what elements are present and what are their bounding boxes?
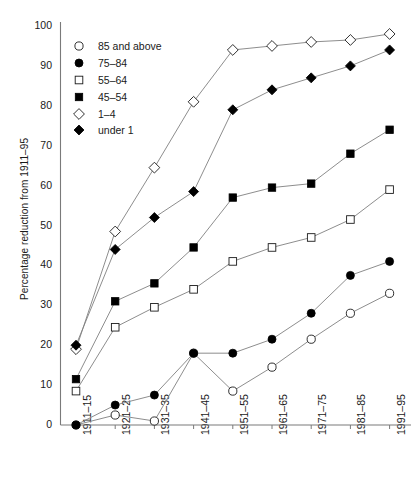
data-point-filled-circle [386, 257, 394, 265]
series-line [76, 261, 390, 425]
series-45-54 [72, 126, 393, 383]
open-diamond-icon [72, 107, 86, 121]
data-point-filled-square [72, 375, 79, 382]
series-line [76, 293, 390, 425]
open-circle-icon [72, 39, 86, 53]
data-point-open-circle [75, 42, 83, 50]
data-point-open-square [307, 234, 315, 242]
data-point-filled-diamond [385, 45, 395, 55]
line-chart: Percentage reduction from 1911–95 010203… [0, 0, 417, 499]
data-point-filled-circle [190, 349, 198, 357]
plot-area [0, 0, 417, 499]
data-point-open-diamond [227, 45, 238, 56]
data-point-filled-square [386, 126, 393, 133]
data-point-filled-square [112, 298, 119, 305]
legend-marker [68, 90, 90, 104]
filled-square-icon [72, 90, 86, 104]
data-point-filled-diamond [306, 73, 316, 83]
series-75-84 [72, 257, 394, 429]
legend-item-label: 45–54 [90, 91, 127, 103]
data-point-open-circle [229, 387, 237, 395]
data-point-filled-circle [346, 271, 354, 279]
data-point-open-diamond [188, 96, 199, 107]
data-point-open-square [229, 258, 237, 266]
data-point-filled-diamond [345, 61, 355, 71]
series-85-and-above [72, 289, 394, 429]
legend-item[interactable]: 85 and above [68, 38, 162, 55]
legend-item[interactable]: 75–84 [68, 55, 162, 72]
data-point-filled-square [151, 280, 158, 287]
data-point-filled-circle [150, 391, 158, 399]
data-point-open-square [75, 76, 83, 84]
data-point-open-diamond [149, 162, 160, 173]
data-point-filled-diamond [189, 187, 199, 197]
data-point-open-diamond [267, 41, 278, 52]
legend-item-label: 55–64 [90, 74, 127, 86]
data-point-open-square [72, 387, 80, 395]
data-point-filled-circle [268, 335, 276, 343]
data-point-filled-diamond [74, 125, 84, 135]
data-point-open-circle [307, 335, 315, 343]
data-point-filled-circle [111, 401, 119, 409]
legend-item-label: 1–4 [90, 108, 116, 120]
legend-item[interactable]: 55–64 [68, 72, 162, 89]
data-point-filled-diamond [110, 244, 120, 254]
legend-item[interactable]: under 1 [68, 122, 162, 139]
data-point-filled-square [308, 180, 315, 187]
filled-circle-icon [72, 56, 86, 70]
legend-item[interactable]: 45–54 [68, 88, 162, 105]
data-point-open-square [268, 244, 276, 252]
data-point-open-circle [268, 363, 276, 371]
legend-marker [68, 107, 90, 121]
data-point-filled-diamond [267, 85, 277, 95]
chart-legend: 85 and above75–8455–6445–541–4under 1 [68, 38, 162, 139]
data-point-filled-circle [307, 309, 315, 317]
data-point-open-diamond [74, 108, 85, 119]
data-point-open-diamond [306, 37, 317, 48]
data-point-open-circle [386, 289, 394, 297]
data-point-open-square [111, 323, 119, 331]
filled-diamond-icon [72, 123, 86, 137]
data-point-filled-circle [229, 349, 237, 357]
legend-marker [68, 123, 90, 137]
data-point-open-circle [346, 309, 354, 317]
data-point-filled-diamond [228, 105, 238, 115]
open-square-icon [72, 73, 86, 87]
legend-marker [68, 39, 90, 53]
legend-marker [68, 56, 90, 70]
legend-item-label: 75–84 [90, 57, 127, 69]
legend-marker [68, 73, 90, 87]
data-point-filled-square [75, 93, 82, 100]
data-point-filled-square [268, 184, 275, 191]
data-point-open-diamond [384, 29, 395, 40]
legend-item-label: under 1 [90, 124, 134, 136]
data-point-open-circle [111, 411, 119, 419]
data-point-filled-square [190, 244, 197, 251]
series-55-64 [72, 186, 393, 395]
series-line [76, 190, 390, 391]
data-point-open-square [151, 303, 159, 311]
data-point-open-diamond [110, 226, 121, 237]
data-point-filled-circle [75, 59, 83, 67]
data-point-open-diamond [345, 35, 356, 46]
series-line [76, 130, 390, 379]
data-point-filled-circle [72, 421, 80, 429]
data-point-open-square [190, 286, 198, 294]
data-point-open-circle [150, 417, 158, 425]
data-point-filled-diamond [149, 213, 159, 223]
data-point-filled-square [347, 150, 354, 157]
data-point-open-square [386, 186, 394, 194]
legend-item-label: 85 and above [90, 40, 162, 52]
data-point-open-square [347, 216, 355, 224]
data-point-filled-square [229, 194, 236, 201]
legend-item[interactable]: 1–4 [68, 105, 162, 122]
